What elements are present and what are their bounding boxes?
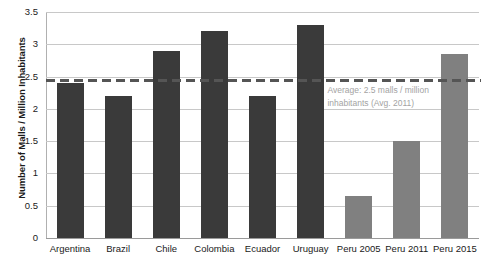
bar-peru-2005[interactable] <box>345 196 372 238</box>
x-axis-label-chile: Chile <box>155 243 177 254</box>
x-axis-label-peru-2005: Peru 2005 <box>337 243 381 254</box>
bar-argentina[interactable] <box>57 83 84 238</box>
bar-brazil[interactable] <box>105 96 132 238</box>
x-axis-label-ecuador: Ecuador <box>245 243 280 254</box>
x-axis-label-argentina: Argentina <box>50 243 91 254</box>
y-axis-tick-label: 1.5 <box>0 135 38 146</box>
bars-layer <box>46 12 479 238</box>
y-axis-tick-label: 0.5 <box>0 200 38 211</box>
y-axis-tick-label: 0 <box>0 232 38 243</box>
x-axis-label-uruguay: Uruguay <box>293 243 329 254</box>
bar-colombia[interactable] <box>201 31 228 238</box>
mall-density-bar-chart: Number of Malls / Million Inhabitants 00… <box>0 0 481 275</box>
plot-area <box>46 12 479 238</box>
x-axis-label-colombia: Colombia <box>194 243 234 254</box>
y-axis-tick-label: 3.5 <box>0 6 38 17</box>
x-axis-label-peru-2015: Peru 2015 <box>433 243 477 254</box>
y-axis-tick-label: 1 <box>0 167 38 178</box>
y-axis-tick-label: 2.5 <box>0 71 38 82</box>
x-axis-label-brazil: Brazil <box>106 243 130 254</box>
average-reference-line <box>46 79 481 82</box>
bar-ecuador[interactable] <box>249 96 276 238</box>
x-axis-label-peru-2011: Peru 2011 <box>385 243 428 254</box>
bar-peru-2011[interactable] <box>393 141 420 238</box>
gridline <box>46 238 479 239</box>
bar-uruguay[interactable] <box>297 25 324 238</box>
y-axis-tick-label: 2 <box>0 103 38 114</box>
y-axis-tick-label: 3 <box>0 38 38 49</box>
average-line-annotation: Average: 2.5 malls / million inhabitants… <box>327 84 437 111</box>
